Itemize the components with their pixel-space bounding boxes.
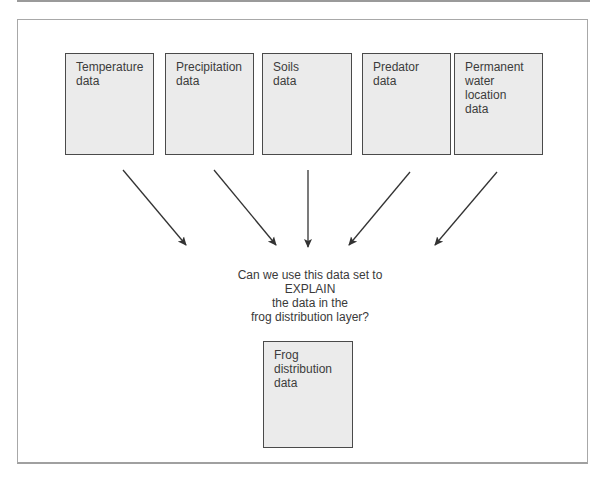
- arrow-precipitation: [214, 170, 276, 245]
- arrow-temperature: [123, 170, 186, 245]
- frog-distribution-data-box: Frog distribution data: [263, 341, 353, 448]
- question-text: Can we use this data set to EXPLAIN the …: [220, 268, 400, 324]
- arrow-predator: [349, 172, 410, 245]
- arrow-permanent-water: [435, 172, 497, 245]
